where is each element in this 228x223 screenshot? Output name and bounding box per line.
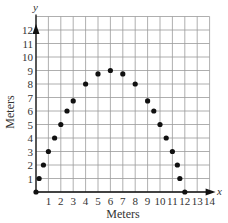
x-tick-label: 8 xyxy=(132,195,138,207)
data-point xyxy=(58,122,63,127)
data-point xyxy=(46,149,51,154)
grid xyxy=(36,17,210,193)
y-axis-name: y xyxy=(32,1,38,13)
x-tick-labels: 1234567891011121314 xyxy=(46,195,216,207)
y-tick-label: 1 xyxy=(28,173,34,185)
data-point xyxy=(71,98,76,103)
x-tick-label: 3 xyxy=(70,195,76,207)
x-tick-label: 10 xyxy=(155,195,167,207)
data-point xyxy=(175,162,180,167)
y-tick-label: 8 xyxy=(28,78,34,90)
data-point xyxy=(64,108,69,113)
data-point xyxy=(95,71,100,76)
data-point xyxy=(83,81,88,86)
y-tick-label: 2 xyxy=(28,159,34,171)
x-axis-name: x xyxy=(216,185,222,197)
x-tick-label: 1 xyxy=(46,195,52,207)
data-point xyxy=(145,98,150,103)
data-point xyxy=(41,162,46,167)
x-axis-label: Meters xyxy=(106,207,140,221)
data-point xyxy=(164,135,169,140)
x-tick-label: 6 xyxy=(108,195,114,207)
y-axis-arrow-icon xyxy=(33,24,40,34)
data-point xyxy=(157,122,162,127)
x-tick-label: 4 xyxy=(83,195,89,207)
y-tick-label: 5 xyxy=(28,119,34,131)
x-tick-label: 2 xyxy=(58,195,64,207)
scatter-chart: 1234567891011121314 123456789101112 Mete… xyxy=(0,0,228,223)
data-point xyxy=(170,149,175,154)
data-point xyxy=(37,176,42,181)
data-point xyxy=(52,135,57,140)
x-tick-label: 14 xyxy=(204,195,216,207)
x-tick-label: 12 xyxy=(179,195,190,207)
y-tick-labels: 123456789101112 xyxy=(22,24,34,185)
y-tick-label: 9 xyxy=(28,65,34,77)
x-tick-label: 9 xyxy=(145,195,151,207)
y-tick-label: 7 xyxy=(28,92,34,104)
data-point xyxy=(151,108,156,113)
y-tick-label: 3 xyxy=(28,146,34,158)
data-point xyxy=(133,81,138,86)
x-tick-label: 7 xyxy=(120,195,126,207)
axes xyxy=(33,15,216,196)
y-axis-label: Meters xyxy=(3,95,17,129)
data-point xyxy=(182,189,187,194)
y-tick-label: 6 xyxy=(28,105,34,117)
y-tick-label: 4 xyxy=(28,132,34,144)
x-tick-label: 13 xyxy=(192,195,204,207)
data-point xyxy=(120,71,125,76)
y-tick-label: 10 xyxy=(22,51,34,63)
data-point xyxy=(177,176,182,181)
y-tick-label: 12 xyxy=(22,24,33,36)
y-tick-label: 11 xyxy=(22,38,33,50)
data-point xyxy=(108,68,113,73)
x-tick-label: 11 xyxy=(167,195,178,207)
data-point xyxy=(33,189,38,194)
x-tick-label: 5 xyxy=(95,195,101,207)
